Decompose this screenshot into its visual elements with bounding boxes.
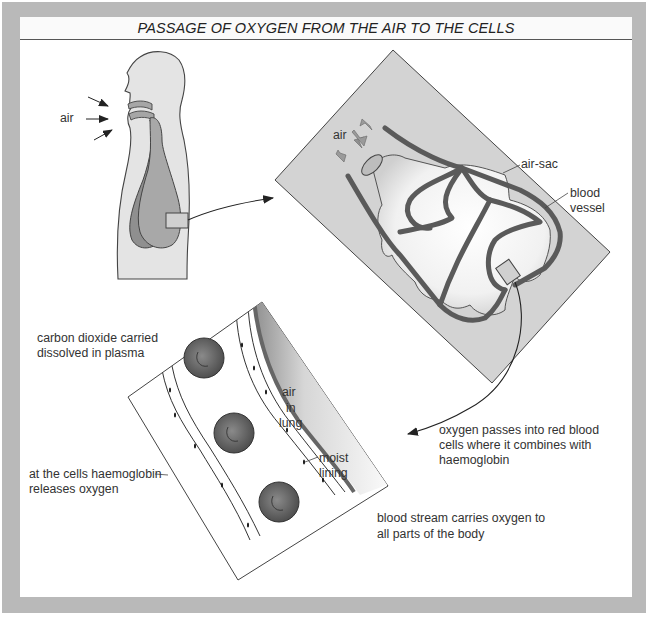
red-blood-cell [259,482,299,522]
capillary-wall-detail [128,295,400,580]
label-air-sac: air-sac [521,157,558,172]
human-torso [86,52,189,279]
label-co2-2: dissolved in plasma [37,346,144,361]
label-oxygen-3: haemoglobin [439,453,509,468]
label-moist-lining-2: lining [319,466,348,481]
label-blood-vessel-1: blood [570,186,600,201]
zoom-arrow-1 [188,198,273,220]
label-stream-2: all parts of the body [377,527,484,542]
label-air-body: air [60,111,74,126]
label-blood-vessel-2: vessel [570,201,605,216]
label-release-1: at the cells haemoglobin [29,467,162,482]
label-air-in-lung-3: lung [279,416,302,431]
label-air-sac-panel: air [333,128,347,143]
red-blood-cell [214,413,254,453]
air-sac-detail [275,50,610,383]
label-release-2: releases oxygen [29,482,119,497]
label-co2-1: carbon dioxide carried [37,331,158,346]
label-oxygen-2: cells where it combines with [439,438,591,453]
red-blood-cell [184,338,224,378]
label-stream-1: blood stream carries oxygen to [377,511,545,526]
label-moist-lining-1: moist [319,451,348,466]
label-air-in-lung-1: air [282,385,296,400]
magnify-box-lung [166,213,188,228]
label-air-in-lung-2: in [286,401,296,416]
diagram-artwork [0,0,650,617]
label-oxygen-1: oxygen passes into red blood [439,423,599,438]
